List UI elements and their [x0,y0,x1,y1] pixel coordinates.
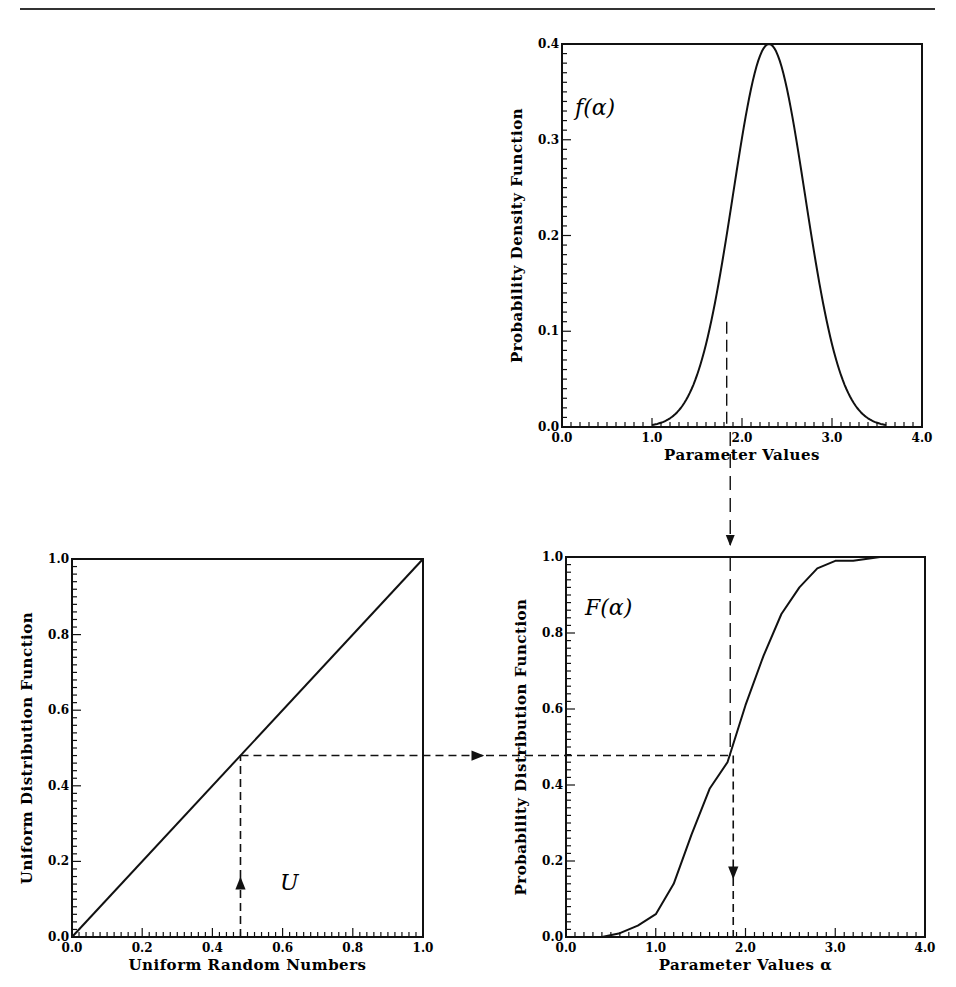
pdf-plot: 0.01.02.03.04.00.00.10.20.30.4Parameter … [508,37,932,464]
x-tick-label: 0.6 [272,941,293,955]
data-curve [652,44,886,425]
x-tick-label: 0.8 [342,941,363,955]
y-tick-label: 0.8 [542,626,563,640]
y-tick-label: 0.4 [48,779,69,793]
y-tick-label: 0.4 [538,37,559,51]
y-tick-label: 0.6 [542,702,563,716]
y-axis-title: Probability Distribution Function [512,598,530,895]
figure: 0.01.02.03.04.00.00.10.20.30.4Parameter … [0,0,956,987]
curve-annotation: F(α) [584,595,632,620]
y-tick-label: 0.0 [542,930,563,944]
y-axis-title: Probability Density Function [508,108,526,363]
y-tick-label: 0.2 [542,854,563,868]
x-axis-title: Uniform Random Numbers [128,956,366,974]
x-tick-label: 1.0 [642,431,663,445]
x-tick-label: 2.0 [735,941,756,955]
dashed-guides [240,322,733,937]
y-tick-label: 0.2 [48,854,69,868]
x-tick-label: 1.0 [413,941,434,955]
data-curve [72,559,423,937]
y-tick-label: 0.0 [538,420,559,434]
curve-annotation: U [280,870,300,895]
y-tick-label: 0.0 [48,930,69,944]
y-tick-label: 0.4 [542,778,563,792]
x-axis-title: Parameter Values α [659,956,833,974]
x-tick-label: 1.0 [645,941,666,955]
x-tick-label: 2.0 [732,431,753,445]
plot-frame [562,44,922,427]
y-tick-label: 0.1 [538,324,559,338]
y-tick-label: 1.0 [48,552,69,566]
y-tick-label: 0.2 [538,229,559,243]
x-tick-label: 0.4 [202,941,223,955]
y-tick-label: 0.8 [48,628,69,642]
uniform-cdf-plot: 0.00.20.40.60.81.00.00.20.40.60.81.0Unif… [18,552,433,974]
x-tick-label: 3.0 [822,431,843,445]
x-tick-label: 3.0 [825,941,846,955]
x-tick-label: 4.0 [912,431,933,445]
curve-annotation: f(α) [573,95,615,120]
y-tick-label: 0.6 [48,703,69,717]
y-tick-label: 1.0 [542,550,563,564]
x-tick-label: 4.0 [915,941,936,955]
x-axis-title: Parameter Values [664,446,820,464]
y-axis-title: Uniform Distribution Function [18,612,36,884]
x-tick-label: 0.2 [132,941,153,955]
y-tick-label: 0.3 [538,133,559,147]
cdf-plot: 0.01.02.03.04.00.00.20.40.60.81.0Paramet… [512,550,935,974]
